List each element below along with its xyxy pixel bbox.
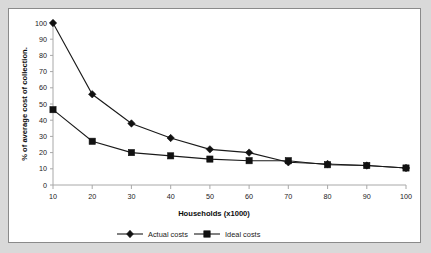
y-tick-label: 100 — [35, 19, 47, 28]
y-tick-label: 20 — [39, 148, 47, 157]
series-markers-actual-costs — [49, 19, 409, 171]
y-tick-label: 10 — [39, 164, 47, 173]
data-point-marker — [285, 158, 291, 164]
y-tick-label: 60 — [39, 83, 47, 92]
y-tick-label: 70 — [39, 67, 47, 76]
data-point-marker — [89, 138, 95, 144]
x-tick-label: 100 — [400, 192, 412, 201]
x-axis-title: Households (x1000) — [178, 209, 250, 218]
y-tick-label: 0 — [43, 181, 47, 190]
x-tick-label: 60 — [245, 192, 253, 201]
legend-label-actual-costs: Actual costs — [148, 230, 188, 239]
line-chart: 0 10 20 30 40 50 60 70 80 90 100 — [9, 9, 420, 242]
data-point-marker — [168, 153, 174, 159]
y-axis-title: % of average cost of collection. — [20, 47, 29, 161]
data-point-marker — [206, 146, 213, 153]
chart-legend: Actual costs Ideal costs — [117, 230, 261, 239]
data-point-marker — [245, 149, 252, 156]
data-point-marker — [324, 162, 330, 168]
data-point-marker — [167, 134, 174, 141]
x-tick-label: 80 — [324, 192, 332, 201]
series-line-ideal-costs — [53, 110, 406, 168]
x-tick-label: 30 — [127, 192, 135, 201]
data-point-marker — [246, 158, 252, 164]
x-axis-ticks: 10 20 30 40 50 60 70 80 90 100 — [49, 185, 412, 201]
data-point-marker — [403, 165, 409, 171]
x-tick-label: 10 — [49, 192, 57, 201]
x-tick-label: 70 — [284, 192, 292, 201]
y-tick-label: 40 — [39, 116, 47, 125]
legend-label-ideal-costs: Ideal costs — [225, 230, 261, 239]
square-marker-icon — [204, 231, 210, 237]
x-tick-label: 40 — [167, 192, 175, 201]
data-point-marker — [49, 19, 56, 26]
y-tick-label: 80 — [39, 51, 47, 60]
legend-item-ideal-costs[interactable]: Ideal costs — [194, 230, 261, 239]
series-markers-ideal-costs — [50, 107, 409, 172]
y-tick-label: 30 — [39, 132, 47, 141]
y-tick-label: 50 — [39, 100, 47, 109]
x-tick-label: 50 — [206, 192, 214, 201]
y-axis-ticks: 0 10 20 30 40 50 60 70 80 90 100 — [35, 19, 53, 190]
data-point-marker — [50, 107, 56, 113]
data-point-marker — [207, 156, 213, 162]
series-line-actual-costs — [53, 23, 406, 168]
y-tick-label: 90 — [39, 35, 47, 44]
x-tick-label: 90 — [363, 192, 371, 201]
data-point-marker — [364, 162, 370, 168]
x-tick-label: 20 — [88, 192, 96, 201]
legend-item-actual-costs[interactable]: Actual costs — [117, 230, 188, 239]
data-point-marker — [128, 150, 134, 156]
chart-figure: 0 10 20 30 40 50 60 70 80 90 100 — [8, 8, 421, 243]
diamond-marker-icon — [127, 230, 134, 238]
